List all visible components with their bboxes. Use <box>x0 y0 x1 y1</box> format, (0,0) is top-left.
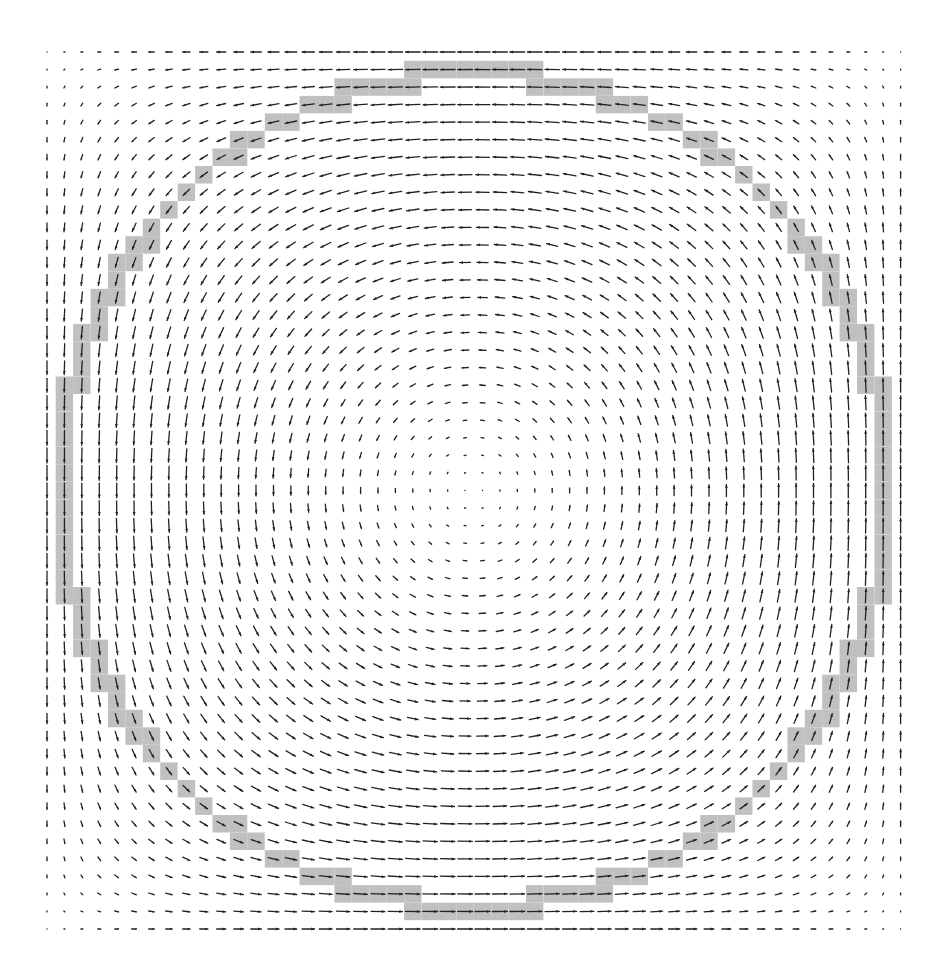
vector-field-canvas <box>0 0 948 974</box>
arrow-head-icon <box>511 156 514 159</box>
arrow-head-icon <box>285 51 288 54</box>
arrow-head-icon <box>864 536 867 539</box>
arrow-head-icon <box>724 380 727 383</box>
arrow-head-icon <box>458 121 461 124</box>
arrow-head-icon <box>812 448 815 451</box>
arrow-head-icon <box>414 648 417 651</box>
arrow-head-icon <box>484 682 487 685</box>
arrow-head-icon <box>690 503 693 506</box>
arrow-head-icon <box>46 495 49 498</box>
arrow-head-icon <box>900 172 902 174</box>
arrow-head-icon <box>450 752 453 755</box>
arrow-head-icon <box>149 282 152 286</box>
arrow-head-icon <box>847 189 849 192</box>
arrow-head-icon <box>319 86 322 89</box>
arrow-head-icon <box>46 318 49 321</box>
arrow-head-icon <box>98 547 101 550</box>
arrow-head-icon <box>690 485 693 488</box>
arrow-head-icon <box>46 686 49 689</box>
arrow-head-icon <box>847 571 850 574</box>
arrow-head-icon <box>531 313 534 316</box>
arrow-head-icon <box>458 138 461 141</box>
arrow-head-icon <box>742 449 745 452</box>
arrow-head-icon <box>847 767 850 770</box>
arrow-head-icon <box>258 928 261 931</box>
arrow-head-icon <box>475 51 478 54</box>
arrow-head-icon <box>641 804 644 807</box>
arrow-head-icon <box>778 678 781 682</box>
arrow-head-icon <box>293 823 297 826</box>
arrow-head-icon <box>616 190 620 193</box>
arrow-head-icon <box>441 138 444 141</box>
arrow-head-icon <box>80 495 83 498</box>
arrow-head-icon <box>485 735 488 738</box>
arrow-head-icon <box>434 928 437 931</box>
arrow-head-icon <box>485 752 488 755</box>
arrow-head-icon <box>528 103 531 106</box>
arrow-head-icon <box>899 624 902 627</box>
arrow-head-icon <box>882 642 885 645</box>
arrow-head-icon <box>46 264 49 267</box>
arrow-head-icon <box>469 857 472 860</box>
arrow-head-icon <box>673 468 676 471</box>
arrow-head-icon <box>452 858 455 861</box>
arrow-head-icon <box>434 840 437 843</box>
arrow-head-icon <box>847 501 850 504</box>
arrow-head-icon <box>205 876 208 879</box>
arrow-head-icon <box>255 493 258 496</box>
arrow-head-icon <box>272 492 275 495</box>
arrow-head-icon <box>133 547 136 550</box>
arrow-head-icon <box>651 51 654 54</box>
arrow-head-icon <box>563 103 566 106</box>
arrow-head-icon <box>864 309 867 312</box>
arrow-head-icon <box>460 279 463 282</box>
arrow-head-icon <box>711 928 714 931</box>
arrow-head-icon <box>132 424 135 427</box>
arrow-head-icon <box>223 928 226 931</box>
arrow-head-icon <box>510 121 513 124</box>
arrow-head-icon <box>46 530 49 533</box>
arrow-head-icon <box>760 449 763 452</box>
arrow-head-icon <box>46 354 49 357</box>
arrow-head-icon <box>812 519 815 522</box>
arrow-head-icon <box>728 910 731 913</box>
arrow-head-icon <box>899 240 902 243</box>
arrow-head-icon <box>882 223 885 226</box>
arrow-head-icon <box>847 536 850 539</box>
vector-arrow <box>46 51 47 52</box>
arrow-head-icon <box>63 264 66 267</box>
arrow-head-icon <box>669 51 672 54</box>
arrow-head-icon <box>63 755 66 758</box>
arrow-head-icon <box>484 630 487 632</box>
arrow-head-icon <box>743 625 746 629</box>
arrow-head-icon <box>486 822 489 825</box>
arrow-head-icon <box>504 928 507 931</box>
arrow-head-icon <box>899 607 902 610</box>
arrow-head-icon <box>565 260 569 263</box>
arrow-head-icon <box>539 928 542 931</box>
arrow-head-icon <box>441 156 444 159</box>
arrow-head-icon <box>115 512 118 515</box>
arrow-head-icon <box>63 772 66 775</box>
arrow-head-icon <box>486 840 489 843</box>
arrow-head-icon <box>521 822 524 825</box>
arrow-head-icon <box>354 68 357 71</box>
arrow-head-icon <box>80 424 83 427</box>
arrow-head-icon <box>899 696 902 699</box>
arrow-head-icon <box>440 103 443 106</box>
arrow-head-icon <box>468 735 471 738</box>
arrow-head-icon <box>486 787 489 790</box>
arrow-head-icon <box>337 51 340 54</box>
arrow-head-icon <box>477 261 480 264</box>
arrow-head-icon <box>484 647 487 650</box>
arrow-head-icon <box>183 51 186 53</box>
arrow-head-icon <box>63 300 66 303</box>
arrow-head-icon <box>777 484 780 487</box>
arrow-head-icon <box>722 120 726 123</box>
arrow-head-icon <box>187 876 190 878</box>
arrow-head-icon <box>777 449 780 452</box>
arrow-head-icon <box>46 582 49 585</box>
arrow-head-icon <box>115 442 118 445</box>
arrow-head-icon <box>504 857 507 860</box>
arrow-head-icon <box>676 822 680 825</box>
